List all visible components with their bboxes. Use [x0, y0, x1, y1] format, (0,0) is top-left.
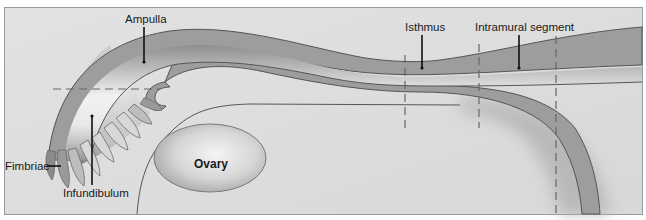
isthmus-label: Isthmus: [405, 21, 446, 33]
intramural-segment-label: Intramural segment: [475, 21, 575, 33]
ovary-label: Ovary: [194, 157, 228, 171]
fallopian-tube-diagram: Ovary Ampulla Isthmus Intramural segment…: [0, 0, 646, 220]
infundibulum-label: Infundibulum: [63, 187, 129, 199]
fimbriae-label: Fimbriae: [5, 160, 50, 172]
ampulla-label: Ampulla: [125, 13, 167, 25]
